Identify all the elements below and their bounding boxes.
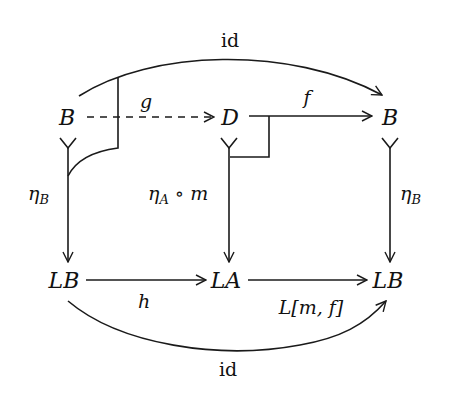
left-mono-tail	[60, 138, 76, 148]
left-bracket	[68, 77, 118, 176]
left-vertical-label: ηB	[28, 182, 49, 207]
g-label: g	[140, 90, 152, 112]
node-bottom-left-LB: LB	[48, 268, 80, 293]
f-label: f	[301, 86, 313, 108]
lmf-label: L[m, f]	[278, 296, 344, 318]
right-mono-tail	[382, 138, 398, 148]
node-bottom-right-LB: LB	[372, 268, 404, 293]
top-id-arrow	[79, 59, 382, 96]
top-id-label: id	[221, 29, 239, 51]
middle-vertical-label: ηA ∘ m	[148, 182, 208, 207]
node-bottom-middle-LA: LA	[210, 268, 242, 293]
bottom-id-label: id	[219, 358, 237, 380]
node-top-left-B: B	[58, 105, 75, 130]
node-top-middle-D: D	[220, 105, 239, 130]
commutative-diagram: id g f B D B ηB ηA ∘ m ηB LB LA LB h L[m…	[0, 0, 449, 393]
middle-mono-tail	[221, 138, 237, 148]
h-label: h	[138, 290, 150, 312]
node-top-right-B: B	[381, 105, 398, 130]
right-vertical-label: ηB	[400, 182, 421, 207]
